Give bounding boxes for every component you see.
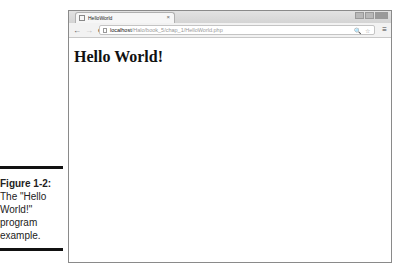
page-content: Hello World!	[69, 38, 391, 262]
tab-helloworld[interactable]: HelloWorld ×	[75, 12, 175, 23]
bookmark-star-icon[interactable]: 🔍 ☆	[354, 27, 371, 34]
window-controls	[355, 12, 388, 19]
url-path: /Halo/book_5/chap_1/HelloWorld.php	[132, 27, 223, 33]
toolbar: ← → C localhost/Halo/book_5/chap_1/Hello…	[69, 23, 391, 38]
forward-icon[interactable]: →	[85, 26, 93, 35]
tab-title: HelloWorld	[88, 15, 112, 21]
caption-bottom-rule	[0, 248, 63, 251]
back-icon[interactable]: ←	[73, 26, 81, 35]
menu-icon[interactable]: ≡	[382, 25, 387, 34]
close-tab-icon[interactable]: ×	[166, 14, 170, 20]
figure-caption: Figure 1-2: The "Hello World!" program e…	[0, 166, 63, 251]
favicon-icon	[79, 15, 85, 21]
page-heading: Hello World!	[74, 48, 163, 66]
caption-label: Figure 1-2:	[0, 177, 63, 190]
caption-text: The "Hello World!" program example.	[0, 191, 46, 241]
close-window-button[interactable]	[375, 12, 388, 19]
browser-window: HelloWorld × ← → C localhost/Halo/book_5…	[68, 10, 392, 263]
minimize-button[interactable]	[355, 12, 364, 19]
page-icon	[103, 28, 107, 33]
url-host: localhost	[110, 27, 132, 33]
maximize-button[interactable]	[365, 12, 374, 19]
address-bar[interactable]: localhost/Halo/book_5/chap_1/HelloWorld.…	[99, 25, 375, 35]
title-bar: HelloWorld ×	[69, 11, 391, 23]
